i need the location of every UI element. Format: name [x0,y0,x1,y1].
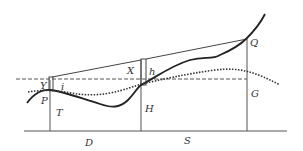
label-S: S [184,135,191,146]
label-H: H [144,103,154,114]
label-Q: Q [250,37,258,48]
geometry-diagram: Y i P T D X h H S Q G [0,0,303,151]
label-X: X [126,65,135,76]
label-i: i [61,81,64,92]
label-T: T [56,107,64,118]
small-box-h [141,59,146,85]
label-h: h [149,66,155,77]
label-D: D [84,137,93,148]
label-G: G [251,88,259,99]
label-P: P [40,95,48,106]
